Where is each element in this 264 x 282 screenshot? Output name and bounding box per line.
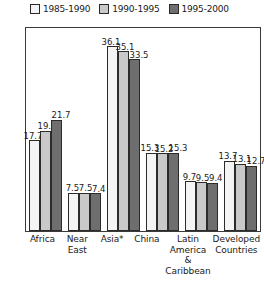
bar-group: 7.57.57.4 — [65, 28, 104, 231]
bar: 12.7 — [246, 166, 257, 231]
bar: 7.5 — [68, 193, 79, 231]
x-axis-tick-label: Asia* — [95, 234, 130, 245]
legend-item-1985-1990: 1985-1990 — [30, 4, 90, 14]
bar: 13.1 — [235, 164, 246, 231]
x-axis-tick-label: LatinAmerica&Caribbean — [164, 234, 211, 276]
bar: 17.7 — [29, 140, 40, 231]
bar-group: 36.135.133.5 — [104, 28, 143, 231]
bar: 33.5 — [129, 59, 140, 231]
legend-item-1995-2000: 1995-2000 — [169, 4, 229, 14]
x-axis-tick-label: China — [129, 234, 164, 245]
legend-swatch-series-2 — [169, 4, 179, 14]
legend-label-series-0: 1985-1990 — [43, 5, 90, 14]
legend-label-series-2: 1995-2000 — [182, 5, 229, 14]
bar-group: 17.719.621.7 — [26, 28, 65, 231]
bar: 15.3 — [146, 153, 157, 231]
bar-value-label: 12.7 — [247, 157, 264, 166]
bar: 9.5 — [196, 182, 207, 231]
bar: 15.2 — [157, 153, 168, 231]
bar: 9.7 — [185, 181, 196, 231]
bar: 36.1 — [107, 46, 118, 231]
legend-swatch-series-0 — [30, 4, 40, 14]
x-axis-labels: AfricaNearEastAsia*ChinaLatinAmerica&Car… — [25, 234, 261, 276]
bar-group: 15.315.215.3 — [143, 28, 182, 231]
x-axis-tick-label: DevelopedCountries — [212, 234, 261, 255]
bar-group: 13.713.112.7 — [221, 28, 260, 231]
chart-legend: 1985-1990 1990-1995 1995-2000 — [30, 2, 262, 16]
plot-area: 17.719.621.77.57.57.436.135.133.515.315.… — [25, 27, 261, 232]
bars-container: 17.719.621.77.57.57.436.135.133.515.315.… — [26, 28, 260, 231]
bar: 19.6 — [40, 131, 51, 231]
legend-item-1990-1995: 1990-1995 — [99, 4, 159, 14]
legend-swatch-series-1 — [99, 4, 109, 14]
bar: 13.7 — [224, 161, 235, 231]
bar-value-label: 9.7 — [183, 173, 197, 182]
x-axis-tick-label: NearEast — [60, 234, 95, 255]
bar-value-label: 9.5 — [196, 174, 210, 183]
bar: 9.4 — [207, 183, 218, 231]
bar-group: 9.79.59.4 — [182, 28, 221, 231]
bar: 7.4 — [90, 193, 101, 231]
bar: 35.1 — [118, 51, 129, 231]
bar-value-label: 7.5 — [79, 184, 93, 193]
bar: 7.5 — [79, 193, 90, 231]
bar: 21.7 — [51, 120, 62, 231]
bar: 15.3 — [168, 153, 179, 231]
bar-value-label: 7.5 — [66, 184, 80, 193]
legend-label-series-1: 1990-1995 — [112, 5, 159, 14]
bar-chart: 1985-1990 1990-1995 1995-2000 Percent of… — [0, 0, 264, 282]
x-axis-tick-label: Africa — [25, 234, 60, 245]
